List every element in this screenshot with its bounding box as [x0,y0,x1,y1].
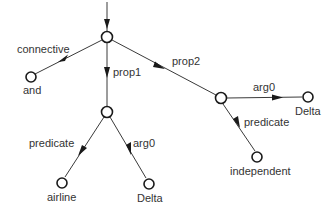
semantic-graph: connective prop1 prop2 arg0 predicate pr… [0,0,335,216]
edge-entry [104,2,110,31]
edge-label-prop2: prop2 [172,55,200,67]
node-prop1 [102,107,113,118]
node-label-and: and [23,84,41,96]
node-independent: independent [230,152,291,177]
arrowhead-icon [104,67,110,78]
edge-arg0-right: arg0 [227,81,302,101]
node-label-delta-bottom: Delta [137,192,164,204]
edge-predicate-left: predicate [29,117,104,177]
edge-predicate-right: predicate [223,104,289,151]
node-label-airline: airline [47,191,76,203]
node-root [102,32,113,43]
edge-label-predicate-right: predicate [244,116,289,128]
node-delta-bottom: Delta [137,179,164,204]
edge-label-arg0-left: arg0 [133,137,155,149]
node-and: and [23,72,41,96]
node-label-independent: independent [230,165,291,177]
node-prop2 [216,93,227,104]
edge-label-predicate-left: predicate [29,137,74,149]
edge-label-connective: connective [17,43,70,55]
node-airline: airline [47,178,76,203]
arrowhead-icon [126,142,131,155]
arrowhead-icon [233,116,240,128]
arrowhead-icon [272,95,283,101]
edge-label-arg0-right: arg0 [253,81,275,93]
edge-arg0-left: arg0 [110,117,155,178]
edge-connective: connective [17,40,102,74]
arrowhead-icon [153,62,165,70]
edge-label-prop1: prop1 [113,66,141,78]
arrowhead-icon [78,145,87,156]
arrowhead-icon [104,19,110,29]
node-delta-right: Delta [295,92,322,117]
node-label-delta-right: Delta [295,105,322,117]
